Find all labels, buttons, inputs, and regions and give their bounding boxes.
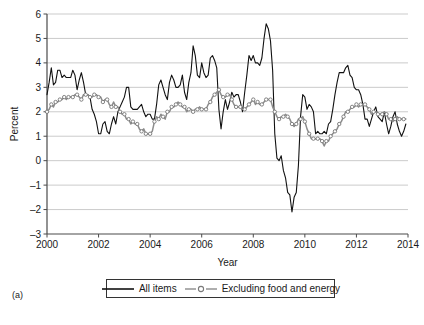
svg-text:1: 1 bbox=[35, 131, 41, 142]
axis-ticks bbox=[44, 14, 409, 238]
chart-legend: All items Excluding food and energy bbox=[106, 279, 335, 298]
panel-label: (a) bbox=[12, 290, 23, 300]
svg-text:2006: 2006 bbox=[191, 239, 214, 250]
svg-text:2000: 2000 bbox=[36, 239, 59, 250]
svg-text:2: 2 bbox=[35, 106, 41, 117]
svg-text:5: 5 bbox=[35, 33, 41, 44]
svg-text:–3: –3 bbox=[30, 229, 42, 240]
svg-text:2012: 2012 bbox=[345, 239, 368, 250]
x-axis-label: Year bbox=[217, 257, 238, 268]
legend-swatch-marker-line bbox=[184, 284, 218, 294]
axis-tick-labels: –3–2–10123456200020022004200620082010201… bbox=[30, 9, 420, 251]
svg-text:3: 3 bbox=[35, 82, 41, 93]
figure-panel: –3–2–10123456200020022004200620082010201… bbox=[0, 0, 424, 325]
y-axis-label: Percent bbox=[9, 107, 20, 142]
svg-text:4: 4 bbox=[35, 57, 41, 68]
svg-text:2002: 2002 bbox=[87, 239, 110, 250]
svg-text:2014: 2014 bbox=[397, 239, 420, 250]
legend-swatch-solid-line bbox=[101, 284, 135, 294]
legend-entry-excluding-food-energy: Excluding food and energy bbox=[184, 283, 340, 294]
svg-text:–2: –2 bbox=[30, 204, 42, 215]
legend-label-all-items: All items bbox=[139, 283, 177, 294]
data-series-layer bbox=[45, 24, 406, 212]
axes bbox=[47, 14, 408, 234]
svg-text:2010: 2010 bbox=[294, 239, 317, 250]
svg-text:–1: –1 bbox=[30, 180, 42, 191]
legend-label-excluding-food-energy: Excluding food and energy bbox=[222, 283, 340, 294]
svg-text:2004: 2004 bbox=[139, 239, 162, 250]
svg-text:6: 6 bbox=[35, 9, 41, 20]
svg-text:0: 0 bbox=[35, 155, 41, 166]
svg-text:2008: 2008 bbox=[242, 239, 265, 250]
legend-entry-all-items: All items bbox=[101, 283, 177, 294]
inflation-line-chart: –3–2–10123456200020022004200620082010201… bbox=[0, 0, 424, 325]
gridlines bbox=[47, 14, 408, 210]
